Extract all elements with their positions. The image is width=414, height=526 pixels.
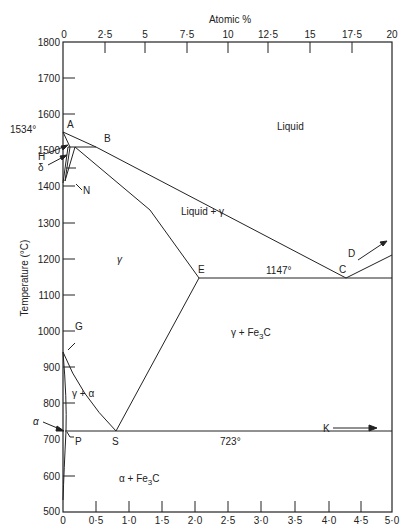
region-gamma-alpha: γ + α: [72, 388, 94, 399]
x2-tick-17.5: 17·5: [342, 29, 362, 40]
region-labels: Liquid Liquid + γ γ γ + Fe3C γ + α α + F…: [72, 121, 304, 487]
svg-text:700: 700: [43, 434, 60, 445]
x2-tick-2.5: 2·5: [98, 29, 113, 40]
left-axis-ticks: [63, 78, 76, 476]
svg-text:500: 500: [43, 506, 60, 517]
x2-tick-20: 20: [386, 29, 398, 40]
svg-text:3·0: 3·0: [254, 515, 269, 526]
label-1534: 1534°: [10, 124, 36, 135]
label-E: E: [198, 264, 205, 275]
svg-text:600: 600: [43, 471, 60, 482]
svg-text:800: 800: [43, 398, 60, 409]
x2-tick-5: 5: [142, 29, 148, 40]
svg-text:3·5: 3·5: [288, 515, 303, 526]
svg-text:5·0: 5·0: [385, 515, 400, 526]
svg-text:1·5: 1·5: [155, 515, 170, 526]
region-liquid: Liquid: [277, 121, 304, 132]
x2-tick-0: 0: [61, 29, 67, 40]
label-P: P: [75, 436, 82, 447]
svg-text:900: 900: [43, 362, 60, 373]
bottom-axis-ticks: [96, 501, 361, 512]
label-C: C: [339, 264, 346, 275]
svg-text:4·5: 4·5: [354, 515, 369, 526]
svg-text:1800: 1800: [38, 37, 61, 48]
left-axis-title: Temperature (°C): [19, 240, 30, 317]
svg-text:4·0: 4·0: [322, 515, 337, 526]
top-axis-labels: 0 2·5 5 7·5 10 12·5 15 17·5 20: [61, 29, 398, 40]
bottom-axis-labels: 0 0·5 1·0 1·5 2·0 2·5 3·0 3·5 4·0 4·5 5·…: [60, 515, 399, 526]
label-D: D: [348, 248, 355, 259]
top-axis-ticks: [105, 42, 352, 53]
x2-tick-7.5: 7·5: [180, 29, 195, 40]
top-axis-title: Atomic %: [209, 14, 251, 25]
region-gamma-fe3c: γ + Fe3C: [231, 327, 271, 341]
point-labels: 1534° A B H δ N E C D G S P K α 1147° 72…: [10, 119, 355, 447]
svg-text:1600: 1600: [38, 109, 61, 120]
label-alpha: α: [33, 416, 39, 427]
x2-tick-12.5: 12·5: [258, 29, 278, 40]
region-alpha-fe3c: α + Fe3C: [119, 473, 160, 487]
label-S: S: [112, 436, 119, 447]
label-K: K: [323, 423, 330, 434]
left-axis-labels: 1800 1700 1600 1500 1400 1300 1200 1100 …: [38, 37, 61, 517]
svg-text:1·0: 1·0: [122, 515, 137, 526]
label-A: A: [67, 119, 74, 130]
label-N: N: [83, 185, 90, 196]
label-B: B: [104, 133, 111, 144]
svg-text:1300: 1300: [38, 218, 61, 229]
label-delta: δ: [38, 162, 44, 173]
label-723: 723°: [220, 436, 241, 447]
svg-text:1700: 1700: [38, 73, 61, 84]
svg-text:1100: 1100: [38, 290, 60, 301]
svg-text:1000: 1000: [38, 326, 61, 337]
label-1147: 1147°: [266, 265, 292, 276]
svg-text:2·5: 2·5: [221, 515, 236, 526]
region-gamma: γ: [117, 254, 123, 265]
x2-tick-15: 15: [304, 29, 316, 40]
region-liquid-gamma: Liquid + γ: [181, 206, 224, 217]
x2-tick-10: 10: [222, 29, 234, 40]
phase-diagram: 0 2·5 5 7·5 10 12·5 15 17·5 20 Atomic % …: [0, 0, 414, 526]
svg-text:0: 0: [60, 515, 66, 526]
arrows: [43, 145, 387, 437]
svg-text:1400: 1400: [38, 181, 61, 192]
label-H: H: [38, 151, 45, 162]
label-G: G: [75, 321, 83, 332]
svg-text:1200: 1200: [38, 254, 61, 265]
svg-text:2·0: 2·0: [188, 515, 203, 526]
svg-text:0·5: 0·5: [89, 515, 104, 526]
